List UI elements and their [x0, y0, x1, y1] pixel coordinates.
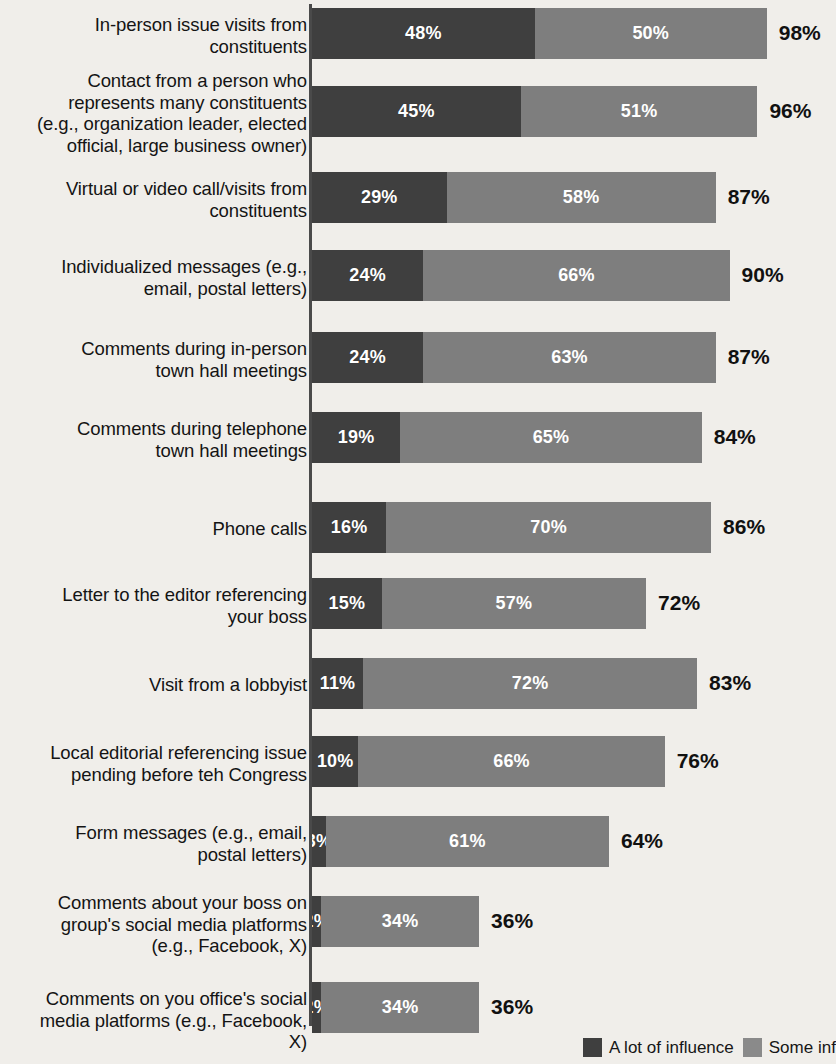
bar-segment-a-lot-of-influence[interactable]: 48%	[312, 8, 535, 59]
bar-value-some-influence: 57%	[496, 593, 533, 614]
chart-legend: A lot of influence Some infuence	[583, 1038, 836, 1057]
category-label: Virtual or video call/visits from consti…	[17, 178, 307, 221]
bar-segment-a-lot-of-influence[interactable]: 19%	[312, 412, 400, 463]
legend-item-a-lot-of-influence[interactable]: A lot of influence	[583, 1038, 734, 1057]
bar-value-some-influence: 58%	[563, 187, 600, 208]
bar-segment-some-influence[interactable]: 34%	[321, 896, 479, 947]
category-label: Local editorial referencing issue pendin…	[17, 742, 307, 785]
bar-segment-some-influence[interactable]: 58%	[447, 172, 716, 223]
bar-segment-some-influence[interactable]: 72%	[363, 658, 697, 709]
bar-value-some-influence: 65%	[533, 427, 570, 448]
bar-value-a-lot-of-influence: 2%	[312, 997, 321, 1018]
bar-segment-a-lot-of-influence[interactable]: 2%	[312, 982, 321, 1033]
bar-value-a-lot-of-influence: 16%	[331, 517, 368, 538]
stacked-bar-chart: In-person issue visits from constituents…	[0, 0, 836, 1064]
stacked-bar[interactable]: 2%34%	[312, 896, 479, 947]
bar-segment-a-lot-of-influence[interactable]: 2%	[312, 896, 321, 947]
legend-label-some-influence: Some infuence	[769, 1038, 836, 1057]
category-label: Individualized messages (e.g., email, po…	[17, 256, 307, 299]
bar-segment-some-influence[interactable]: 51%	[521, 86, 758, 137]
stacked-bar[interactable]: 19%65%	[312, 412, 702, 463]
bar-segment-a-lot-of-influence[interactable]: 24%	[312, 250, 423, 301]
bar-total-label: 76%	[677, 749, 719, 773]
stacked-bar[interactable]: 45%51%	[312, 86, 757, 137]
bar-value-a-lot-of-influence: 45%	[398, 101, 435, 122]
bar-value-some-influence: 70%	[530, 517, 567, 538]
bar-total-label: 36%	[491, 909, 533, 933]
bar-segment-a-lot-of-influence[interactable]: 3%	[312, 816, 326, 867]
bar-total-label: 90%	[742, 263, 784, 287]
category-label: Comments during in-person town hall meet…	[17, 338, 307, 381]
category-label: Letter to the editor referencing your bo…	[17, 584, 307, 627]
bar-segment-a-lot-of-influence[interactable]: 16%	[312, 502, 386, 553]
bar-total-label: 36%	[491, 995, 533, 1019]
bar-value-a-lot-of-influence: 15%	[328, 593, 365, 614]
stacked-bar[interactable]: 2%34%	[312, 982, 479, 1033]
legend-swatch-some-influence	[743, 1038, 762, 1057]
category-label: Comments about your boss on group's soci…	[17, 892, 307, 957]
bar-value-some-influence: 50%	[632, 23, 669, 44]
bar-total-label: 87%	[728, 345, 770, 369]
category-label: Comments on you office's social media pl…	[17, 988, 307, 1053]
bar-total-label: 87%	[728, 185, 770, 209]
bar-total-label: 83%	[709, 671, 751, 695]
bar-value-some-influence: 72%	[512, 673, 549, 694]
bar-value-a-lot-of-influence: 19%	[338, 427, 375, 448]
category-label: Form messages (e.g., email, postal lette…	[17, 822, 307, 865]
category-label: Phone calls	[17, 518, 307, 540]
bar-value-a-lot-of-influence: 11%	[320, 673, 356, 694]
stacked-bar[interactable]: 3%61%	[312, 816, 609, 867]
bar-value-some-influence: 34%	[382, 911, 419, 932]
bar-total-label: 96%	[769, 99, 811, 123]
bar-segment-some-influence[interactable]: 57%	[382, 578, 646, 629]
bar-value-some-influence: 34%	[382, 997, 419, 1018]
bar-segment-some-influence[interactable]: 65%	[400, 412, 702, 463]
bar-segment-some-influence[interactable]: 50%	[535, 8, 767, 59]
category-label: Comments during telephone town hall meet…	[17, 418, 307, 461]
bar-segment-some-influence[interactable]: 66%	[423, 250, 729, 301]
bar-value-some-influence: 61%	[449, 831, 486, 852]
category-label: In-person issue visits from constituents	[17, 14, 307, 57]
bar-total-label: 72%	[658, 591, 700, 615]
bar-segment-some-influence[interactable]: 66%	[358, 736, 664, 787]
legend-swatch-a-lot-of-influence	[583, 1038, 602, 1057]
bar-segment-some-influence[interactable]: 70%	[386, 502, 711, 553]
stacked-bar[interactable]: 24%63%	[312, 332, 716, 383]
bar-value-a-lot-of-influence: 10%	[317, 751, 354, 772]
legend-item-some-influence[interactable]: Some infuence	[743, 1038, 836, 1057]
bar-segment-some-influence[interactable]: 63%	[423, 332, 715, 383]
bar-value-a-lot-of-influence: 48%	[405, 23, 442, 44]
bar-value-a-lot-of-influence: 3%	[312, 831, 326, 852]
bar-value-a-lot-of-influence: 2%	[312, 911, 321, 932]
stacked-bar[interactable]: 11%72%	[312, 658, 697, 709]
category-label: Visit from a lobbyist	[17, 674, 307, 696]
bar-segment-some-influence[interactable]: 34%	[321, 982, 479, 1033]
bar-segment-a-lot-of-influence[interactable]: 29%	[312, 172, 447, 223]
bar-total-label: 98%	[779, 21, 821, 45]
bar-segment-some-influence[interactable]: 61%	[326, 816, 609, 867]
category-label: Contact from a person who represents man…	[17, 70, 307, 156]
bar-segment-a-lot-of-influence[interactable]: 10%	[312, 736, 358, 787]
bar-total-label: 64%	[621, 829, 663, 853]
bar-value-a-lot-of-influence: 24%	[349, 265, 386, 286]
bar-value-a-lot-of-influence: 24%	[349, 347, 386, 368]
bar-value-some-influence: 66%	[493, 751, 530, 772]
bar-value-some-influence: 66%	[558, 265, 595, 286]
bar-segment-a-lot-of-influence[interactable]: 11%	[312, 658, 363, 709]
stacked-bar[interactable]: 48%50%	[312, 8, 767, 59]
bar-value-some-influence: 63%	[551, 347, 588, 368]
bar-segment-a-lot-of-influence[interactable]: 24%	[312, 332, 423, 383]
stacked-bar[interactable]: 10%66%	[312, 736, 665, 787]
bar-value-some-influence: 51%	[621, 101, 658, 122]
bar-segment-a-lot-of-influence[interactable]: 15%	[312, 578, 382, 629]
stacked-bar[interactable]: 16%70%	[312, 502, 711, 553]
bar-value-a-lot-of-influence: 29%	[361, 187, 398, 208]
stacked-bar[interactable]: 24%66%	[312, 250, 730, 301]
bar-total-label: 84%	[714, 425, 756, 449]
legend-label-a-lot-of-influence: A lot of influence	[609, 1038, 734, 1057]
stacked-bar[interactable]: 15%57%	[312, 578, 646, 629]
bar-segment-a-lot-of-influence[interactable]: 45%	[312, 86, 521, 137]
bar-total-label: 86%	[723, 515, 765, 539]
stacked-bar[interactable]: 29%58%	[312, 172, 716, 223]
